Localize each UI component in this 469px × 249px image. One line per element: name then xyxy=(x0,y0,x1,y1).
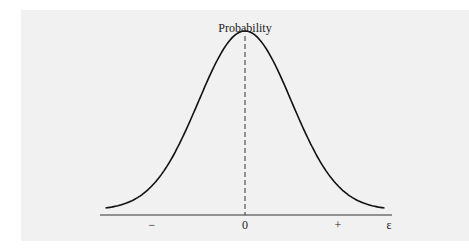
chart: Probability −0+ ε xyxy=(0,0,469,249)
x-tick-label: 0 xyxy=(242,218,248,232)
x-tick-label: + xyxy=(335,218,342,232)
x-axis-label: ε xyxy=(386,218,391,232)
x-tick-label: − xyxy=(149,218,156,232)
y-axis-label: Probability xyxy=(218,21,271,35)
